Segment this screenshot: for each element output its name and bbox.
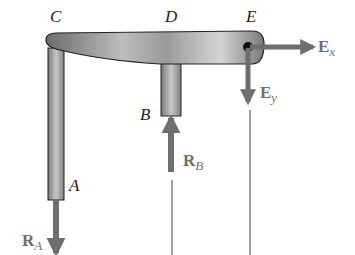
label-force-ey: Ey — [260, 84, 277, 104]
label-d: D — [165, 8, 177, 25]
diagram-canvas — [0, 0, 355, 255]
label-force-ex: Ex — [318, 38, 335, 58]
label-b: B — [140, 106, 150, 123]
label-force-ra: RA — [22, 232, 42, 252]
member-ca — [48, 48, 64, 200]
label-e: E — [246, 8, 256, 25]
free-body-diagram: C D E B A Ex Ey RB RA — [0, 0, 355, 255]
label-c: C — [50, 8, 61, 25]
member-cde — [46, 31, 264, 64]
label-force-rb: RB — [183, 152, 203, 172]
label-a: A — [69, 177, 79, 194]
